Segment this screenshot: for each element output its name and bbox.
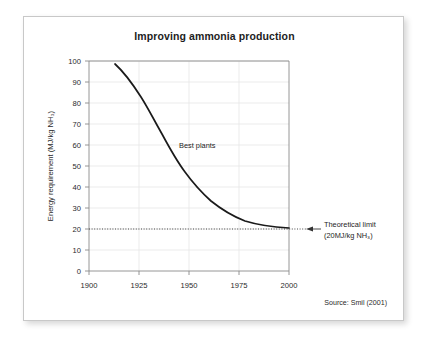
- x-tick-label: 1975: [231, 281, 248, 290]
- y-tick-label: 70: [73, 120, 81, 129]
- x-tick-label: 1925: [131, 281, 148, 290]
- y-tick-label: 100: [68, 57, 81, 66]
- y-tick-label: 20: [73, 225, 81, 234]
- x-axis-ticks: [89, 271, 289, 275]
- figure-card: Improving ammonia production: [23, 16, 404, 321]
- left-arrow-icon: [306, 227, 313, 232]
- y-tick-label: 50: [73, 162, 81, 171]
- x-tick-label: 1950: [181, 281, 198, 290]
- y-tick-label: 0: [77, 267, 81, 276]
- y-tick-label: 40: [73, 183, 81, 192]
- series-inline-label: Best plants: [179, 141, 216, 150]
- theoretical-limit-annotation: Theoretical limit (20MJ/kg NH₃): [89, 220, 376, 240]
- x-tick-label: 1900: [81, 281, 98, 290]
- theoretical-limit-label-line1: Theoretical limit: [324, 220, 376, 229]
- y-tick-label: 60: [73, 141, 81, 150]
- theoretical-limit-label-line2: (20MJ/kg NH₃): [324, 231, 373, 240]
- y-tick-label: 10: [73, 246, 81, 255]
- x-tick-labels: 1900 1925 1950 1975 2000: [81, 281, 298, 290]
- x-tick-label: 2000: [281, 281, 298, 290]
- source-note: Source: Smil (2001): [324, 299, 387, 307]
- chart-plot: 100 90 80 70 60 50 40 30 20 10 0 1900 19…: [24, 17, 405, 322]
- y-tick-label: 80: [73, 99, 81, 108]
- y-axis-title: Energy requirement (MJ/kg NH₃): [46, 110, 55, 221]
- y-tick-label: 30: [73, 204, 81, 213]
- y-axis-ticks: [85, 61, 89, 271]
- y-tick-labels: 100 90 80 70 60 50 40 30 20 10 0: [68, 57, 81, 276]
- y-tick-label: 90: [73, 78, 81, 87]
